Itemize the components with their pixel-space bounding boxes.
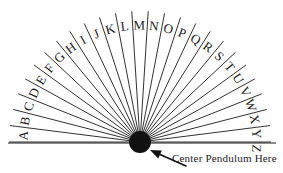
ray-line-q <box>140 23 196 142</box>
letter-label-p: P <box>176 25 188 42</box>
chart-canvas: ABCDEFGHIJKLMNOPQRSTUVWXYZ <box>0 0 283 173</box>
ray-line-c <box>13 109 140 142</box>
letter-label-j: J <box>91 26 101 42</box>
ray-line-h <box>57 41 141 142</box>
letter-label-v: V <box>237 84 255 99</box>
letter-label-d: D <box>25 86 43 101</box>
letter-label-l: L <box>120 18 130 34</box>
ray-line-j <box>84 23 140 142</box>
letter-label-y: Y <box>249 129 265 140</box>
center-pendulum-label: Center Pendulum Here <box>172 152 277 164</box>
ray-line-d <box>18 94 140 142</box>
ray-line-s <box>140 41 224 142</box>
ray-line-x <box>140 109 267 142</box>
arrow-head <box>150 150 162 158</box>
letter-label-k: K <box>104 20 117 37</box>
letter-label-b: B <box>17 115 33 127</box>
center-hub <box>129 131 151 153</box>
letter-label-a: A <box>15 130 31 141</box>
pendulum-chart-diagram: ABCDEFGHIJKLMNOPQRSTUVWXYZ Center Pendul… <box>0 0 283 173</box>
letter-label-o: O <box>162 20 175 37</box>
letter-label-n: N <box>148 18 160 34</box>
letter-label-m: M <box>133 17 145 32</box>
letter-label-c: C <box>20 100 37 113</box>
letter-label-x: X <box>247 113 264 126</box>
letter-label-e: E <box>32 73 49 88</box>
